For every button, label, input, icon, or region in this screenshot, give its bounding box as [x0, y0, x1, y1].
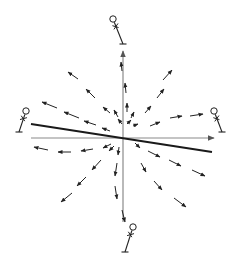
arrow-icon — [102, 128, 110, 131]
arrow-icon — [86, 89, 95, 98]
arrow-icon — [115, 163, 117, 176]
arrow-icon — [61, 193, 72, 202]
arrow-icon — [118, 119, 122, 124]
head-icon — [211, 108, 217, 114]
vector-arrows — [34, 62, 205, 222]
stick-figure-left — [16, 108, 30, 132]
arrow-icon — [150, 122, 160, 126]
arrow-icon — [114, 110, 118, 117]
arrow-icon — [125, 83, 126, 93]
stick-figure-right — [211, 108, 226, 132]
arrow-icon — [64, 112, 79, 118]
arrow-icon — [145, 106, 151, 113]
arrow-icon — [135, 143, 140, 148]
arrow-icon — [121, 62, 122, 71]
arrow-icon — [103, 107, 110, 113]
arrow-icon — [169, 160, 181, 166]
diagram-svg — [0, 0, 237, 266]
arrow-icon — [190, 114, 203, 116]
arrow-icon — [192, 170, 205, 176]
arrow-icon — [118, 147, 119, 155]
observer-figures — [16, 16, 226, 252]
arrow-icon — [81, 149, 93, 151]
arrow-icon — [170, 116, 182, 118]
head-icon — [130, 224, 136, 230]
arrow-icon — [103, 144, 111, 148]
arrow-icon — [174, 198, 186, 207]
arrow-icon — [77, 177, 86, 186]
head-icon — [23, 108, 29, 114]
arrow-icon — [84, 121, 96, 125]
stick-figure-bottom — [122, 224, 137, 252]
arrow-icon — [163, 70, 172, 80]
vector-field-diagram — [0, 0, 237, 266]
arrow-icon — [154, 181, 162, 190]
arrow-icon — [157, 89, 164, 98]
arrow-icon — [141, 163, 146, 172]
stick-figure-top — [110, 16, 127, 44]
arrow-icon — [115, 186, 117, 199]
arrow-icon — [92, 160, 101, 170]
arrow-icon — [148, 151, 160, 157]
arrow-icon — [127, 120, 131, 124]
arrow-icon — [109, 146, 114, 151]
head-icon — [110, 16, 116, 22]
arrow-icon — [42, 102, 57, 108]
coordinate-axes — [31, 51, 214, 222]
arrow-icon — [131, 112, 134, 118]
arrow-icon — [68, 72, 78, 79]
arrow-icon — [133, 124, 138, 126]
arrow-icon — [34, 147, 48, 150]
